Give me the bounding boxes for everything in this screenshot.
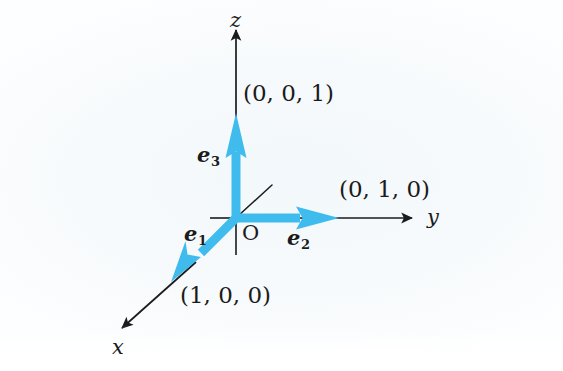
axis-label-x: x (112, 337, 124, 358)
coordinate-label-y: (0, 1, 0) (339, 178, 430, 201)
axis-label-z: z (230, 10, 241, 31)
basis-vector-e3 (226, 113, 247, 219)
axis-label-y: y (427, 207, 439, 228)
origin-label: O (242, 223, 259, 244)
basis-label-e3-subscript: 3 (211, 154, 220, 169)
coordinate-label-x: (1, 0, 0) (180, 284, 271, 307)
basis-label-e2-subscript: 2 (301, 237, 310, 252)
basis-label-e1: e1 (184, 223, 207, 247)
basis-label-e3: e3 (197, 144, 220, 168)
basis-label-e3-symbol: e (197, 142, 210, 167)
coordinate-axes-figure: z y x O (0, 0, 1) (0, 1, 0) (1, 0, 0) e3… (0, 0, 563, 371)
basis-label-e2: e2 (287, 227, 310, 251)
basis-label-e1-symbol: e (184, 221, 197, 246)
negative-x-axis-stub (238, 185, 272, 216)
basis-label-e1-subscript: 1 (198, 233, 207, 248)
basis-label-e2-symbol: e (287, 225, 300, 250)
vector-diagram-canvas (0, 0, 563, 371)
coordinate-label-z: (0, 0, 1) (243, 82, 334, 105)
